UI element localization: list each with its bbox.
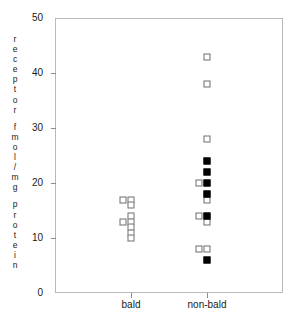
y-axis-title-word: protein [4,199,26,270]
y-axis-tick-label: 30 [32,122,43,133]
y-axis-title-char: / [4,162,26,172]
data-point-open-square [120,196,127,203]
data-point-filled-square [204,158,211,165]
x-axis-tick-mark [207,293,208,298]
y-axis-tick: 30 [0,128,52,129]
y-axis-title-char: r [4,210,26,220]
data-point-filled-square [204,180,211,187]
y-axis-title-char: f [4,122,26,132]
y-axis-tick-mark [51,128,56,129]
y-axis-title-char: i [4,250,26,260]
y-axis-title-char: c [4,54,26,64]
y-axis-title-char: o [4,95,26,105]
y-axis-tick-label: 20 [32,177,43,188]
data-point-open-square [196,180,203,187]
y-axis-tick: 50 [0,18,52,19]
y-axis-title-char: p [4,74,26,84]
y-axis-tick: 10 [0,238,52,239]
y-axis-tick-mark [51,183,56,184]
data-point-open-square [204,81,211,88]
x-axis-tick-mark [131,293,132,298]
y-axis-title-char: r [4,34,26,44]
y-axis-title: receptorfmol/mgprotein [4,34,26,270]
y-axis-title-char: e [4,44,26,54]
x-axis-category-label: bald [122,299,141,310]
y-axis-title-char: o [4,220,26,230]
y-axis-tick-label: 10 [32,232,43,243]
data-point-open-square [128,235,135,242]
data-point-filled-square [204,213,211,220]
y-axis-title-char: m [4,132,26,142]
y-axis-title-char: m [4,172,26,182]
data-point-open-square [204,246,211,253]
y-axis-tick: 20 [0,183,52,184]
plot-area [55,18,283,293]
y-axis-title-char: t [4,84,26,94]
data-point-open-square [204,136,211,143]
y-axis-title-char: n [4,260,26,270]
data-point-open-square [196,246,203,253]
data-point-open-square [128,202,135,209]
y-axis-title-word: fmol/mg [4,122,26,193]
y-axis-title-char: e [4,240,26,250]
data-point-open-square [204,53,211,60]
y-axis-title-char: l [4,152,26,162]
y-axis-tick-label: 0 [37,287,43,298]
y-axis-title-char: o [4,142,26,152]
data-point-filled-square [204,169,211,176]
y-axis-tick-mark [51,238,56,239]
y-axis-tick-mark [51,73,56,74]
y-axis-tick-label: 40 [32,67,43,78]
x-axis-category-label: non-bald [188,299,227,310]
y-axis-title-char: p [4,199,26,209]
y-axis-tick-label: 50 [32,12,43,23]
data-point-filled-square [204,191,211,198]
y-axis-title-word: receptor [4,34,26,115]
y-axis-title-char: r [4,105,26,115]
scatter-plot-figure: receptorfmol/mgprotein 01020304050 baldn… [0,0,297,319]
data-point-open-square [120,218,127,225]
y-axis-tick: 40 [0,73,52,74]
y-axis-tick: 0 [0,293,52,294]
data-point-open-square [196,213,203,220]
data-point-filled-square [204,257,211,264]
